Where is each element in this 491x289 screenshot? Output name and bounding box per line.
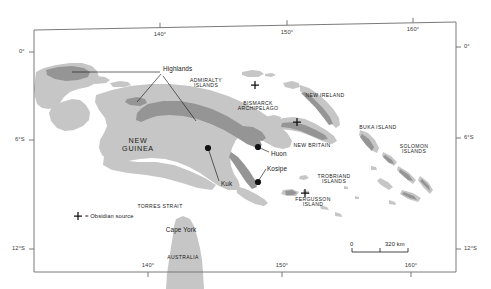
lon-tick-label-bottom-160: 160°	[395, 262, 427, 268]
region-label-cape-york: Cape York	[153, 227, 209, 234]
lon-tick-label-bottom-150: 150°	[266, 262, 298, 268]
solomon-new-georgia	[377, 178, 393, 190]
lat-tick-label-left-6s: 6°S	[15, 136, 25, 142]
louisiade-islet-b	[335, 212, 342, 217]
lon-tick-label-160: 160°	[397, 26, 429, 32]
admiralty-islet	[265, 73, 276, 77]
site-dot-kuk	[205, 145, 211, 151]
misc-islet-b	[355, 196, 359, 199]
scale-bar-start-label: 0	[350, 241, 353, 247]
scale-bar-group	[352, 248, 408, 252]
region-label-trobriand-islands: TROBRIAND ISLANDS	[308, 174, 360, 185]
site-label-huon: Huon	[271, 151, 287, 158]
solomon-islet-a	[371, 166, 377, 170]
leader-huon	[260, 148, 269, 152]
map-figure: 140° 150° 160° 140° 150° 160° 0° 6°S 12°…	[0, 0, 491, 289]
lon-tick-label-140: 140°	[144, 31, 176, 37]
region-label-new-guinea: NEW GUINEA	[112, 137, 164, 152]
site-dot-kosipe	[255, 179, 261, 185]
lat-tick-label-right-6s: 6°S	[464, 134, 474, 140]
admiralty-islands-land	[242, 70, 264, 77]
solomon-islet-b	[389, 200, 396, 205]
lon-tick-label-150: 150°	[271, 29, 303, 35]
scale-bar-end-label: 320 km	[385, 241, 405, 247]
new-hanover-land	[283, 81, 300, 89]
site-label-kuk: Kuk	[221, 181, 232, 188]
lat-tick-label-left-0: 0°	[19, 48, 25, 54]
legend-marker-group	[74, 212, 82, 220]
annotation-label-highlands: Highlands	[163, 66, 192, 73]
region-label-buka-island: BUKA ISLAND	[348, 125, 408, 130]
region-label-australia: AUSTRALIA	[158, 255, 208, 260]
region-label-torres-strait: TORRES STRAIT	[126, 204, 194, 209]
obsidian-admiralty-icon	[251, 81, 259, 89]
misc-islet-a	[344, 186, 348, 189]
lat-tick-label-right-12s: 12°S	[464, 245, 477, 251]
lat-tick-label-left-12s: 12°S	[12, 245, 25, 251]
small-island-b	[110, 81, 131, 87]
region-label-bismarck-archipelago: BISMARCK ARCHIPELAGO	[226, 101, 290, 112]
site-dot-huon	[255, 144, 261, 150]
site-label-kosipe: Kosipe	[267, 166, 287, 173]
highland-group	[46, 66, 430, 200]
region-label-solomon-islands: SOLOMON ISLANDS	[389, 144, 439, 155]
landmass-lowland-group	[34, 63, 433, 289]
legend-label: = Obsidian source	[85, 213, 134, 219]
legend-obsidian-icon	[74, 212, 82, 220]
region-label-new-britain: NEW BRITAIN	[282, 143, 342, 148]
region-label-new-ireland: NEW IRELAND	[294, 93, 356, 98]
region-label-admiralty-islands: ADMIRALTY ISLANDS	[180, 78, 232, 89]
region-label-fergusson-island: FERGUSSON ISLAND	[288, 197, 338, 208]
lat-tick-label-right-0: 0°	[464, 43, 470, 49]
lon-tick-label-bottom-140: 140°	[132, 262, 164, 268]
leader-kosipe	[259, 169, 266, 180]
